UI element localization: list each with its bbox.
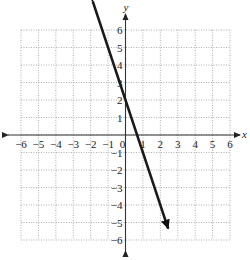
x-tick-label: −4 [50,138,62,150]
x-tick-label: 5 [210,138,216,150]
x-tick-label: −6 [15,138,27,150]
x-tick-label: 6 [227,138,233,150]
y-axis-label: y [123,1,129,13]
plotted-line [93,1,168,228]
x-tick-label: 4 [192,138,198,150]
y-tick-label: −2 [111,164,123,176]
x-tick-label: 2 [158,138,164,150]
coordinate-plane: x y −6−5−4−3−2−10123456−6−5−4−3−2−112345… [0,0,250,260]
y-tick-label: 4 [117,59,123,71]
plot-series [93,1,168,228]
y-tick-label: −3 [111,182,123,194]
y-tick-label: −1 [111,147,123,159]
y-tick-label: −6 [111,234,123,246]
axes: x y [8,1,247,251]
y-tick-label: 1 [117,112,123,124]
x-tick-label: −3 [67,138,79,150]
y-tick-label: −5 [111,217,123,229]
x-tick-label: 3 [175,138,181,150]
y-tick-label: 6 [117,24,123,36]
y-tick-label: 5 [117,42,123,54]
y-tick-label: 2 [117,94,123,106]
x-tick-label: −5 [33,138,45,150]
x-tick-label: −2 [85,138,97,150]
y-tick-label: −4 [111,199,123,211]
x-axis-label: x [241,128,247,140]
